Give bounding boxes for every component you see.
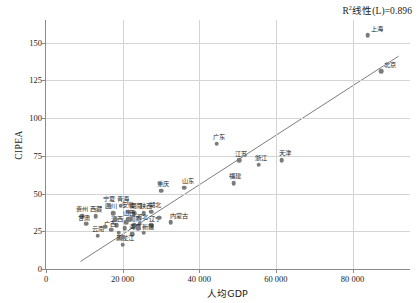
- data-point: [168, 220, 173, 225]
- x-tick-mark: [46, 269, 47, 273]
- data-point-label: 江苏: [235, 151, 247, 157]
- data-point: [149, 209, 154, 214]
- data-point-label: 浙江: [255, 155, 267, 161]
- gridline-vertical: [199, 20, 200, 269]
- gridline-horizontal: [46, 80, 410, 81]
- data-point-label: 内蒙古: [170, 213, 188, 219]
- gridline-horizontal: [46, 156, 410, 157]
- data-point-label: 北京: [384, 62, 396, 68]
- data-point: [109, 227, 114, 232]
- data-point-label: 广东: [213, 134, 225, 140]
- data-point: [111, 211, 116, 216]
- y-tick-label: 100: [29, 113, 42, 123]
- y-tick-label: 150: [29, 38, 42, 48]
- data-point: [128, 217, 133, 222]
- data-point-label: 天津: [279, 150, 291, 156]
- data-point: [113, 217, 118, 222]
- data-point: [256, 163, 261, 168]
- data-point-label: 贵州: [76, 206, 88, 212]
- x-tick-mark: [199, 269, 200, 273]
- scatter-chart: R2线性(L)=0.896 CIPEA 0255075100125150020 …: [0, 0, 420, 303]
- data-point-label: 云南: [92, 226, 104, 232]
- data-point-label: 重庆: [157, 180, 169, 186]
- data-point-label: 福建: [229, 173, 241, 179]
- data-point-label: 山西: [123, 210, 135, 216]
- data-point: [122, 226, 127, 231]
- y-tick-mark: [42, 118, 46, 119]
- y-tick-mark: [42, 231, 46, 232]
- x-tick-label: 40 000: [188, 274, 211, 284]
- gridline-horizontal: [46, 118, 410, 119]
- plot-area: 0255075100125150020 00040 00060 00080 00…: [45, 20, 410, 270]
- y-tick-label: 25: [34, 226, 43, 236]
- data-point-label: 山东: [182, 177, 194, 183]
- x-tick-mark: [353, 269, 354, 273]
- data-point: [118, 203, 123, 208]
- y-tick-mark: [42, 43, 46, 44]
- r-squared-annotation: R2线性(L)=0.896: [342, 3, 412, 17]
- x-tick-label: 0: [44, 274, 48, 284]
- gridline-vertical: [276, 20, 277, 269]
- y-tick-label: 0: [38, 264, 42, 274]
- data-point: [159, 188, 164, 193]
- y-tick-label: 75: [34, 151, 43, 161]
- data-point-label: 甘肃: [78, 215, 90, 221]
- y-tick-mark: [42, 156, 46, 157]
- data-point: [94, 214, 99, 219]
- data-point-label: 青海: [117, 195, 129, 201]
- r-squared-text: 线性(L)=0.896: [352, 6, 412, 16]
- data-point-label: 新疆: [142, 224, 154, 230]
- y-tick-label: 50: [34, 189, 43, 199]
- y-axis-title: CIPEA: [14, 130, 24, 159]
- data-point: [379, 69, 384, 74]
- y-tick-mark: [42, 194, 46, 195]
- data-point: [237, 158, 242, 163]
- x-tick-label: 80 000: [341, 274, 364, 284]
- gridline-horizontal: [46, 194, 410, 195]
- data-point: [107, 203, 112, 208]
- gridline-vertical: [353, 20, 354, 269]
- gridline-horizontal: [46, 43, 410, 44]
- x-tick-mark: [276, 269, 277, 273]
- x-tick-label: 20 000: [111, 274, 134, 284]
- y-tick-mark: [42, 80, 46, 81]
- data-point: [182, 185, 187, 190]
- x-tick-mark: [123, 269, 124, 273]
- data-point: [141, 230, 146, 235]
- y-tick-label: 125: [29, 75, 42, 85]
- data-point: [120, 235, 125, 240]
- data-point: [279, 158, 284, 163]
- data-point: [95, 234, 100, 239]
- data-point: [366, 33, 371, 38]
- data-point: [103, 224, 108, 229]
- x-tick-label: 60 000: [264, 274, 287, 284]
- data-point: [120, 243, 125, 248]
- gridline-vertical: [123, 20, 124, 269]
- data-point: [157, 215, 162, 220]
- data-point-label: 西藏: [90, 206, 102, 212]
- data-point: [136, 226, 141, 231]
- data-point-label: 上海: [371, 26, 383, 32]
- data-point-label: 宁夏: [103, 195, 115, 201]
- data-point: [84, 221, 89, 226]
- data-point: [214, 141, 219, 146]
- data-point: [231, 181, 236, 186]
- x-axis-title: 人均GDP: [45, 286, 410, 300]
